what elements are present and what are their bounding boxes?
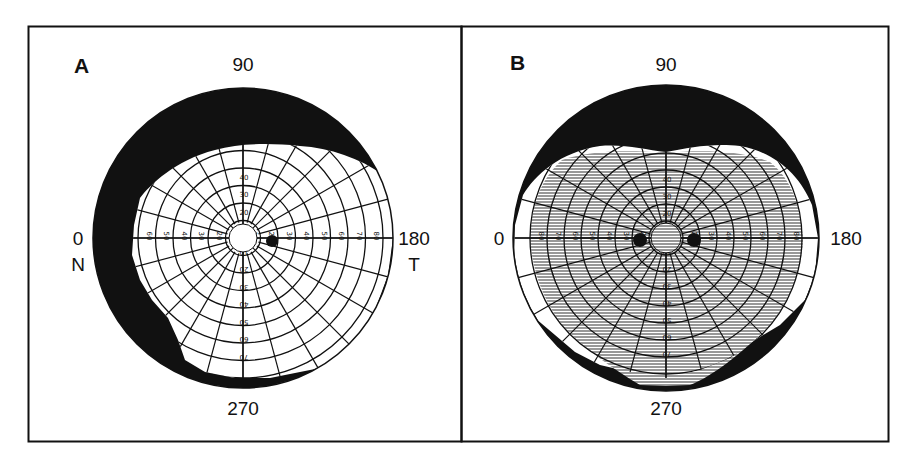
tick-label: 50 xyxy=(162,232,170,241)
panel-a-label-0: 0 xyxy=(73,228,84,249)
panel-b-label-180: 180 xyxy=(830,228,862,249)
panel-b: 8070605040302020304050607080102030401020… xyxy=(494,51,862,419)
panel-b-label-90: 90 xyxy=(655,54,676,75)
tick-label: 40 xyxy=(302,232,310,241)
panel-b-label-0: 0 xyxy=(494,228,505,249)
panel-b-blind-spot-right xyxy=(687,233,701,247)
tick-label: 80 xyxy=(372,232,380,241)
tick-label: 30 xyxy=(197,232,205,241)
tick-label: 40 xyxy=(240,174,249,182)
tick-label: 40 xyxy=(663,299,672,307)
tick-label: 30 xyxy=(240,191,249,199)
panel-b-fixation xyxy=(651,223,681,253)
tick-label: 80 xyxy=(792,232,800,241)
tick-label: 70 xyxy=(240,353,249,361)
tick-label: 80 xyxy=(537,232,545,241)
panel-a-fixation xyxy=(229,224,257,252)
tick-label: 30 xyxy=(285,232,293,241)
tick-label: 40 xyxy=(724,232,732,241)
tick-label: 40 xyxy=(605,232,613,241)
tick-label: 30 xyxy=(622,232,630,241)
panel-a-label-270: 270 xyxy=(227,398,259,419)
tick-label: 60 xyxy=(145,232,153,241)
tick-label: 20 xyxy=(240,265,249,273)
panel-a-label-180: 180 xyxy=(398,228,430,249)
tick-label: 20 xyxy=(240,209,249,217)
panel-a-label-temporal: T xyxy=(408,254,420,275)
tick-label: 60 xyxy=(571,232,579,241)
panel-b-label-270: 270 xyxy=(650,398,682,419)
tick-label: 40 xyxy=(240,300,249,308)
tick-label: 50 xyxy=(320,232,328,241)
panel-a-blind-spot xyxy=(266,235,278,247)
tick-label: 70 xyxy=(775,232,783,241)
tick-label: 50 xyxy=(741,232,749,241)
tick-label: 40 xyxy=(663,176,672,184)
tick-label: 60 xyxy=(337,232,345,241)
tick-label: 20 xyxy=(663,265,672,273)
tick-label: 60 xyxy=(240,335,249,343)
tick-label: 20 xyxy=(663,210,672,218)
visual-field-figure: 6050403020101020304050607080102030401020… xyxy=(0,0,916,472)
panel-a-label: A xyxy=(74,54,89,77)
tick-label: 70 xyxy=(663,350,672,358)
tick-label: 60 xyxy=(758,232,766,241)
tick-label: 20 xyxy=(215,232,223,241)
tick-label: 70 xyxy=(554,232,562,241)
panel-a-label-nasal: N xyxy=(71,254,85,275)
tick-label: 60 xyxy=(663,333,672,341)
panel-b-blind-spot-left xyxy=(633,233,647,247)
tick-label: 30 xyxy=(663,193,672,201)
tick-label: 30 xyxy=(240,283,249,291)
tick-label: 30 xyxy=(707,232,715,241)
tick-label: 70 xyxy=(355,232,363,241)
tick-label: 30 xyxy=(663,282,672,290)
tick-label: 50 xyxy=(240,318,249,326)
panel-b-label: B xyxy=(510,51,525,74)
tick-label: 50 xyxy=(663,316,672,324)
tick-label: 50 xyxy=(588,232,596,241)
tick-label: 40 xyxy=(180,232,188,241)
panel-a-label-90: 90 xyxy=(232,54,253,75)
panel-a: 6050403020101020304050607080102030401020… xyxy=(71,54,430,419)
